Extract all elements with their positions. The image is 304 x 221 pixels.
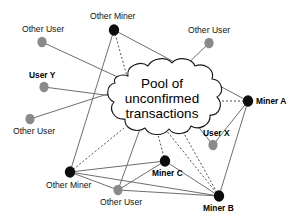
edge-dashed	[166, 130, 219, 196]
label-miner-c: Miner C	[152, 168, 183, 178]
label-other-miner-top: Other Miner	[90, 11, 135, 21]
node-other-user-topright[interactable]	[204, 38, 213, 48]
edge-solid	[118, 129, 140, 190]
node-miner-c[interactable]	[160, 155, 170, 167]
node-other-miner-bottom[interactable]	[65, 166, 75, 178]
node-miner-b[interactable]	[214, 190, 224, 202]
node-other-user-left[interactable]	[25, 114, 34, 124]
label-user-y: User Y	[29, 70, 55, 80]
label-miner-b: Miner B	[203, 203, 234, 213]
edge-solid	[70, 172, 219, 196]
label-other-user-topright: Other User	[188, 25, 230, 35]
label-other-user-left: Other User	[13, 126, 55, 136]
label-other-user-topleft: Other User	[22, 24, 64, 34]
label-other-user-bottom: Other User	[100, 197, 142, 207]
label-miner-a: Miner A	[256, 96, 286, 106]
edge-dashed	[114, 30, 128, 80]
edge-dashed	[70, 128, 124, 172]
node-miner-a[interactable]	[243, 95, 253, 107]
label-other-miner-bottom: Other Miner	[46, 180, 91, 190]
edge-solid	[165, 161, 219, 196]
label-user-x: User X	[203, 128, 230, 138]
node-other-user-topleft[interactable]	[37, 37, 46, 47]
edge-solid	[118, 190, 219, 196]
edge-solid	[219, 101, 248, 196]
edge-solid	[70, 30, 114, 172]
network-diagram: Pool of unconfirmed transactions Other U…	[0, 0, 304, 221]
node-user-x[interactable]	[208, 140, 217, 150]
node-other-user-bottom[interactable]	[113, 185, 122, 195]
node-user-y[interactable]	[39, 82, 48, 92]
node-other-miner-top[interactable]	[109, 24, 119, 36]
